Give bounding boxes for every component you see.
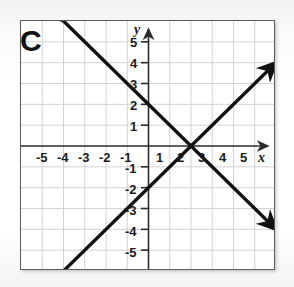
data-lines [21,21,275,270]
y-tick-label--5: -5 [125,246,137,259]
x-tick-label--3: -3 [78,151,90,164]
x-tick-label-5: 5 [240,151,247,164]
x-tick-label--4: -4 [57,151,69,164]
y-tick-label-3: 3 [130,78,137,91]
y-axis-label: y [134,23,140,37]
x-tick-label-4: 4 [219,151,226,164]
plot-wrapper: -5 -4 -3 -2 -1 1 2 3 4 5 5 4 3 2 1 -1 -2… [20,20,275,270]
y-tick-label--1: -1 [125,162,137,175]
x-tick-label--5: -5 [36,151,48,164]
x-tick-label--2: -2 [99,151,111,164]
y-tick-label--3: -3 [125,204,137,217]
y-tick-label--2: -2 [125,183,137,196]
y-tick-label-1: 1 [130,120,137,133]
series-descending-line [64,21,276,229]
x-tick-label-3: 3 [198,151,205,164]
x-tick-label-2: 2 [177,151,184,164]
panel-label: C [20,26,42,56]
figure-panel: -5 -4 -3 -2 -1 1 2 3 4 5 5 4 3 2 1 -1 -2… [0,0,294,287]
coordinate-plane: -5 -4 -3 -2 -1 1 2 3 4 5 5 4 3 2 1 -1 -2… [20,20,275,270]
y-tick-label-2: 2 [130,99,137,112]
series-ascending-line [64,63,276,270]
y-tick-label-5: 5 [130,36,137,49]
x-axis-label: x [258,151,265,165]
x-tick-label-1: 1 [156,151,163,164]
y-tick-label--4: -4 [125,225,137,238]
y-tick-label-4: 4 [130,57,137,70]
